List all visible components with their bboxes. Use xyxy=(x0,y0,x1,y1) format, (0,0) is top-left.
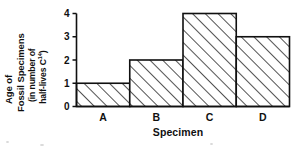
scan-speckle xyxy=(40,144,44,146)
y-tick-group: 43210 xyxy=(64,8,77,112)
bars-group xyxy=(77,14,290,107)
bar-b xyxy=(130,60,183,107)
x-category-group: ABCD xyxy=(99,111,267,123)
y-tick-label-2: 2 xyxy=(64,55,70,66)
bar-chart-figure: Age of Fossil Specimens (in number of ha… xyxy=(0,0,300,149)
scan-speckle xyxy=(6,141,9,143)
y-tick-label-3: 3 xyxy=(64,31,70,42)
bar-a xyxy=(77,83,130,106)
y-tick-label-1: 1 xyxy=(64,78,70,89)
scan-speckle xyxy=(210,143,213,145)
y-tick-label-0: 0 xyxy=(64,101,70,112)
x-category-label-d: D xyxy=(259,111,267,123)
y-tick-label-4: 4 xyxy=(64,8,70,19)
bar-d xyxy=(236,37,289,107)
x-category-label-b: B xyxy=(153,111,161,123)
x-category-label-a: A xyxy=(99,111,107,123)
x-axis-title: Specimen xyxy=(62,126,294,138)
x-category-label-c: C xyxy=(206,111,214,123)
bar-c xyxy=(183,14,236,107)
